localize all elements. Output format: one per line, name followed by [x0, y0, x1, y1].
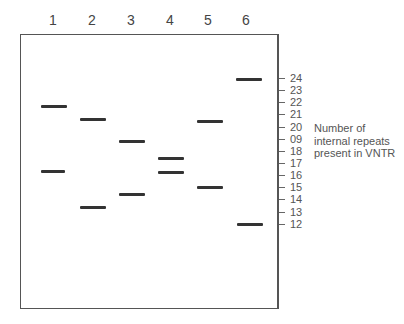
tick-label: 17 [290, 157, 302, 169]
gel-band [119, 140, 145, 143]
gel-band [41, 105, 67, 108]
lane-label: 6 [236, 12, 256, 28]
tick-mark [279, 102, 285, 103]
lane-label: 2 [82, 12, 102, 28]
gel-band [197, 120, 223, 123]
gel-band [158, 171, 184, 174]
axis-title-line: internal repeats [314, 135, 404, 148]
tick-label: 15 [290, 181, 302, 193]
tick-label: 16 [290, 169, 302, 181]
axis-title: Number of internal repeats present in VN… [314, 122, 404, 160]
lane-label: 3 [121, 12, 141, 28]
tick-mark [279, 175, 285, 176]
tick-mark [279, 212, 285, 213]
tick-label: 12 [290, 218, 302, 230]
tick-mark [279, 139, 285, 140]
tick-label: 09 [290, 133, 302, 145]
tick-label: 24 [290, 72, 302, 84]
tick-mark [279, 187, 285, 188]
ladder-axis [278, 34, 279, 309]
gel-band [80, 206, 106, 209]
tick-mark [279, 127, 285, 128]
tick-mark [279, 90, 285, 91]
gel-band [237, 223, 263, 226]
tick-mark [279, 114, 285, 115]
tick-label: 18 [290, 145, 302, 157]
lane-label: 5 [198, 12, 218, 28]
lane-label: 1 [43, 12, 63, 28]
tick-label: 23 [290, 84, 302, 96]
tick-mark [279, 199, 285, 200]
gel-band [119, 193, 145, 196]
tick-mark [279, 163, 285, 164]
tick-mark [279, 224, 285, 225]
tick-label: 21 [290, 108, 302, 120]
tick-label: 20 [290, 121, 302, 133]
gel-band [158, 157, 184, 160]
axis-title-line: present in VNTR [314, 147, 404, 160]
gel-band [197, 186, 223, 189]
gel-band [236, 78, 262, 81]
tick-label: 14 [290, 193, 302, 205]
gel-band [80, 118, 106, 121]
lane-label: 4 [160, 12, 180, 28]
gel-band [41, 170, 65, 173]
tick-label: 22 [290, 96, 302, 108]
tick-mark [279, 151, 285, 152]
tick-label: 13 [290, 206, 302, 218]
axis-title-line: Number of [314, 122, 404, 135]
tick-mark [279, 78, 285, 79]
